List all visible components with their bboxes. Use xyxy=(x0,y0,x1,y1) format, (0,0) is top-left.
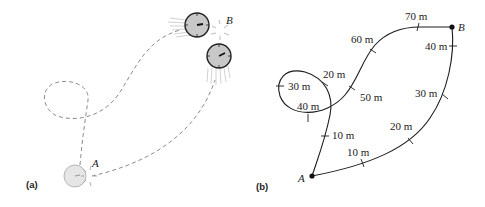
motion-streaks-lower xyxy=(207,66,230,85)
dashed-path-loop xyxy=(44,30,180,165)
point-a-dot xyxy=(309,173,314,178)
tick-marks-lower xyxy=(361,46,457,167)
tick-label-upper-20: 20 m xyxy=(323,68,346,80)
dashed-path-direct xyxy=(92,80,215,176)
tick-label-upper-40: 40 m xyxy=(297,100,320,112)
point-b-dot xyxy=(449,24,454,29)
point-a-label: A xyxy=(297,172,305,184)
point-b-label: B xyxy=(226,14,233,26)
tick-label-upper-60: 60 m xyxy=(351,33,374,45)
figure-canvas: B A (a) xyxy=(0,0,485,207)
panel-b: A B 10 m 20 m 30 m 40 m 50 m 60 m 70 m 1… xyxy=(256,10,465,192)
tick-label-lower-40: 40 m xyxy=(425,40,448,52)
point-b-label: B xyxy=(458,21,465,33)
tick-label-upper-50: 50 m xyxy=(360,91,383,103)
tick-label-upper-70: 70 m xyxy=(405,10,428,22)
tick-label-upper-10: 10 m xyxy=(332,129,355,141)
point-a-label: A xyxy=(91,157,99,169)
clock-icon xyxy=(185,13,209,37)
tick-label-upper-30: 30 m xyxy=(288,80,311,92)
tick-label-lower-10: 10 m xyxy=(347,146,370,158)
clock-icon xyxy=(207,44,231,68)
tick-label-lower-30: 30 m xyxy=(415,87,438,99)
panel-a: B A (a) xyxy=(26,13,233,190)
panel-b-label: (b) xyxy=(256,181,268,192)
panel-a-label: (a) xyxy=(26,179,38,190)
tick-label-lower-20: 20 m xyxy=(390,120,413,132)
starburst-icon xyxy=(81,166,97,186)
